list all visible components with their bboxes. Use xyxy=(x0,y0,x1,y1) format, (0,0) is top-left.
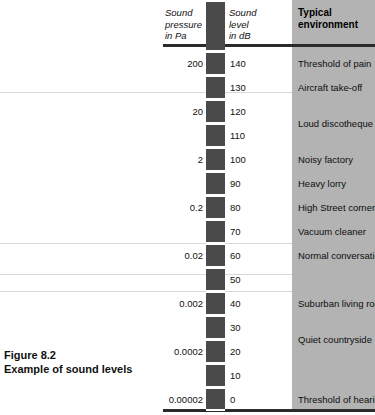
header-level-line1: Sound xyxy=(229,7,283,19)
sound-level-table: Sound pressure in Pa Sound level in dB T… xyxy=(163,0,375,415)
table-cell-environment: Vacuum cleaner xyxy=(298,226,374,237)
scale-bar-segment xyxy=(206,389,225,410)
header-level-line3: in dB xyxy=(229,30,283,42)
scale-bar-segment xyxy=(206,2,225,50)
scale-bar-segment xyxy=(206,293,225,314)
table-cell-pressure: 0.002 xyxy=(163,298,203,309)
table-cell-level: 140 xyxy=(230,58,260,69)
scale-bar-segment xyxy=(206,317,225,338)
table-cell-environment: Noisy factory xyxy=(298,154,374,165)
figure-sound-levels: Figure 8.2 Example of sound levels Sound… xyxy=(0,0,375,415)
table-cell-pressure: 0.0002 xyxy=(163,346,203,357)
table-cell-environment: High Street corner xyxy=(298,202,374,213)
table-cell-pressure: 0.02 xyxy=(163,250,203,261)
header-level-line2: level xyxy=(229,19,283,31)
scale-bar-segment xyxy=(206,173,225,194)
table-cell-level: 40 xyxy=(230,298,260,309)
table-cell-environment: Threshold of pain xyxy=(298,58,374,69)
table-cell-environment: Threshold of hearing xyxy=(298,394,374,405)
table-cell-level: 60 xyxy=(230,250,260,261)
scale-bar-segment xyxy=(206,245,225,266)
table-cell-environment: Normal conversation xyxy=(298,250,374,261)
figure-caption: Figure 8.2 Example of sound levels xyxy=(4,348,154,376)
table-cell-environment: Heavy lorry xyxy=(298,178,374,189)
column-header-level: Sound level in dB xyxy=(229,7,283,42)
table-cell-environment: Aircraft take-off xyxy=(298,82,374,93)
table-cell-pressure: 2 xyxy=(163,154,203,165)
table-cell-level: 110 xyxy=(230,130,260,141)
column-header-environment: Typical environment xyxy=(298,7,372,31)
table-cell-level: 80 xyxy=(230,202,260,213)
scale-bar-segment xyxy=(206,101,225,122)
table-cell-environment: Loud discotheque xyxy=(298,118,374,129)
table-cell-level: 70 xyxy=(230,226,260,237)
header-environment-line1: Typical xyxy=(298,7,372,19)
scale-bar-segment xyxy=(206,125,225,146)
caption-title: Figure 8.2 xyxy=(4,348,154,362)
scale-bar-segment xyxy=(206,221,225,242)
table-cell-pressure: 200 xyxy=(163,58,203,69)
scale-bar-segment xyxy=(206,341,225,362)
scale-bar-segment xyxy=(206,197,225,218)
table-cell-level: 90 xyxy=(230,178,260,189)
table-cell-environment: Quiet countryside xyxy=(298,334,374,345)
table-cell-level: 10 xyxy=(230,370,260,381)
table-cell-level: 0 xyxy=(230,394,260,405)
table-rule-top xyxy=(163,44,375,47)
caption-subtitle: Example of sound levels xyxy=(4,362,154,376)
table-cell-pressure: 0.00002 xyxy=(163,394,203,405)
table-rule-bottom xyxy=(163,409,375,412)
scale-bar-segment xyxy=(206,77,225,98)
table-cell-pressure: 20 xyxy=(163,106,203,117)
table-cell-level: 130 xyxy=(230,82,260,93)
table-cell-level: 100 xyxy=(230,154,260,165)
table-cell-level: 30 xyxy=(230,322,260,333)
scale-bar-segment xyxy=(206,365,225,386)
header-environment-line2: environment xyxy=(298,19,372,31)
scale-bar-segment xyxy=(206,149,225,170)
table-cell-level: 20 xyxy=(230,346,260,357)
table-cell-level: 120 xyxy=(230,106,260,117)
sound-level-scale-bar xyxy=(206,0,225,411)
scale-bar-segment xyxy=(206,53,225,74)
table-cell-environment: Suburban living room xyxy=(298,298,374,309)
table-cell-level: 50 xyxy=(230,274,260,285)
scale-bar-segment xyxy=(206,269,225,290)
table-cell-pressure: 0.2 xyxy=(163,202,203,213)
